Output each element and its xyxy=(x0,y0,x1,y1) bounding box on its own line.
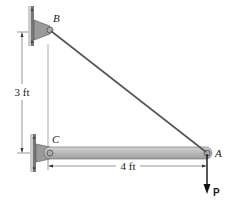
point-label-c: C xyxy=(52,133,60,145)
point-label-b: B xyxy=(53,12,60,24)
beam-ca xyxy=(44,147,212,159)
point-label-a: A xyxy=(214,147,222,159)
dimension-horizontal-label: 4 ft xyxy=(121,160,136,172)
load-label-p: P xyxy=(213,187,220,198)
pin-c xyxy=(47,150,53,156)
cable-ba xyxy=(51,31,206,152)
beam-cable-diagram: 3 ft 4 ft P B C A xyxy=(0,0,234,212)
wall-support-b xyxy=(28,6,53,46)
load-arrow-p xyxy=(204,154,211,194)
dimension-vertical-label: 3 ft xyxy=(15,86,30,98)
